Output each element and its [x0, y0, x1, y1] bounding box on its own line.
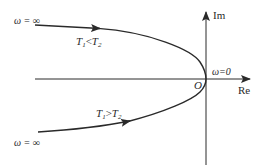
imag-axis-label: Im: [213, 10, 225, 21]
lower-curve-condition: T1>T2: [96, 108, 121, 121]
upper-curve: [35, 25, 100, 29]
omega-infinity-bottom-label: ω = ∞: [14, 138, 40, 148]
t2-subscript: 2: [98, 41, 102, 49]
real-axis-label: Re: [238, 85, 250, 96]
origin-label: O: [194, 80, 202, 91]
omega-infinity-top-label: ω = ∞: [14, 16, 40, 26]
omega-zero-label: ω=0: [212, 67, 231, 77]
lower-curve: [38, 121, 130, 132]
upper-curve-condition: T1<T2: [76, 36, 101, 49]
upper-curve-body: [98, 28, 206, 79]
t2-subscript: 2: [118, 113, 122, 121]
